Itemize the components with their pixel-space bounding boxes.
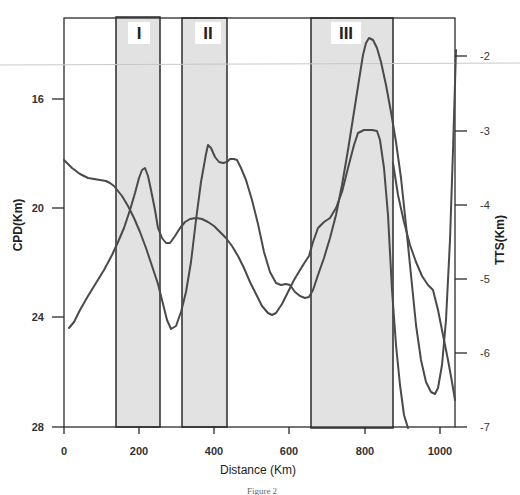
- chart-canvas: I II III 0 200 400 600 800 1000 Distance…: [0, 0, 520, 495]
- band-ii: [182, 18, 227, 427]
- x-tick-600: 600: [280, 445, 298, 457]
- right-axis-title: TTS(Km): [493, 215, 507, 265]
- left-tick-24: 24: [32, 311, 45, 323]
- x-tick-400: 400: [205, 445, 223, 457]
- x-tick-800: 800: [356, 445, 374, 457]
- band-i: [116, 17, 160, 427]
- band-label-iii: III: [339, 24, 353, 43]
- left-tick-16: 16: [32, 93, 44, 105]
- figure-caption: Figure 2: [247, 486, 277, 495]
- left-tick-20: 20: [32, 202, 44, 214]
- right-tick-neg7: -7: [480, 421, 490, 433]
- x-tick-0: 0: [61, 445, 67, 457]
- left-axis-ticks: [52, 99, 64, 427]
- band-label-i: I: [137, 24, 142, 43]
- x-axis-title: Distance (Km): [220, 463, 296, 477]
- right-axis-ticks: [455, 56, 467, 427]
- right-tick-neg2: -2: [480, 50, 490, 62]
- right-tick-neg5: -5: [480, 273, 490, 285]
- left-tick-28: 28: [32, 421, 44, 433]
- scan-artifact-line: [0, 63, 520, 65]
- band-label-ii: II: [203, 24, 212, 43]
- right-tick-neg4: -4: [480, 199, 490, 211]
- right-tick-neg3: -3: [480, 125, 490, 137]
- x-tick-1000: 1000: [428, 445, 452, 457]
- right-tick-neg6: -6: [480, 347, 490, 359]
- x-tick-200: 200: [130, 445, 148, 457]
- left-axis-title: CPD(Km): [11, 199, 25, 252]
